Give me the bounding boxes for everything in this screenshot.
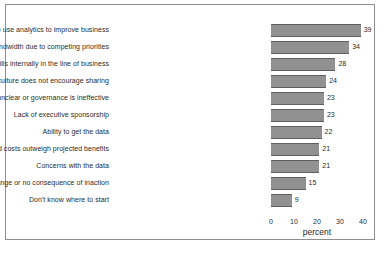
x-tick-label: 40 <box>353 217 373 226</box>
x-axis-title: percent <box>271 227 363 238</box>
x-tick-label: 0 <box>261 217 281 226</box>
x-tick-label: 30 <box>330 217 350 226</box>
x-tick-label: 20 <box>307 217 327 226</box>
plot-frame: Lack of understanding of how to use anal… <box>5 4 375 240</box>
x-tick-label: 10 <box>284 217 304 226</box>
x-axis: 010203040 <box>6 5 374 239</box>
chart-figure: Lack of understanding of how to use anal… <box>0 0 387 256</box>
